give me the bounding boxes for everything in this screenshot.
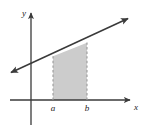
y-axis-label: y bbox=[21, 8, 26, 18]
coordinate-plane-diagram: y x a b bbox=[0, 0, 149, 132]
math-figure: y x a b bbox=[0, 0, 149, 132]
tick-label-a: a bbox=[51, 103, 56, 113]
tick-label-b: b bbox=[85, 103, 90, 113]
x-axis-label: x bbox=[133, 102, 138, 112]
